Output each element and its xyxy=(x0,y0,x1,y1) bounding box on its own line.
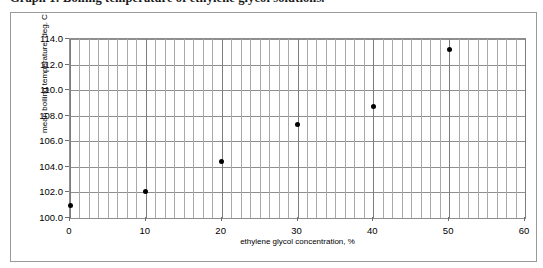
x-axis-tick-mark xyxy=(69,217,70,221)
x-axis-tick-label: 20 xyxy=(201,225,241,236)
x-axis-tick-mark xyxy=(221,217,222,221)
x-axis-tick-label: 60 xyxy=(504,225,543,236)
x-axis-tick-mark xyxy=(145,217,146,221)
x-axis-tick-mark xyxy=(524,217,525,221)
x-axis-tick-label: 40 xyxy=(352,225,392,236)
x-axis-title: ethylene glycol concentration, % xyxy=(69,237,526,246)
y-axis-title: mean boiling temperature, deg. C xyxy=(40,0,49,154)
x-axis-tick-label: 50 xyxy=(428,225,468,236)
x-axis-tick-label: 30 xyxy=(277,225,317,236)
x-axis-tick-mark xyxy=(297,217,298,221)
x-axis-tick-mark xyxy=(448,217,449,221)
x-axis-ticks: 0102030405060 xyxy=(11,13,536,261)
chart-object-frame[interactable]: 100.0102.0104.0106.0108.0110.0112.0114.0… xyxy=(10,12,537,262)
figure-caption: Graph 1: Boiling temperature of ethylene… xyxy=(10,0,530,5)
x-axis-tick-label: 0 xyxy=(49,225,89,236)
x-axis-tick-label: 10 xyxy=(125,225,165,236)
x-axis-tick-mark xyxy=(372,217,373,221)
